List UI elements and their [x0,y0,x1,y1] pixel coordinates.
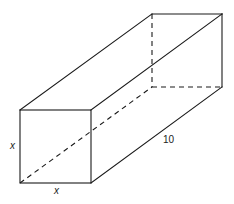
front-height-label: x [10,141,15,151]
rectangular-prism-figure [0,0,234,204]
front-face [20,110,91,183]
length-label: 10 [163,135,174,145]
bottom-right-length-edge [91,87,222,183]
diagram-canvas: x x 10 [0,0,234,204]
front-width-label: x [54,186,59,196]
hidden-bottom-left-length-edge [20,87,152,183]
top-right-length-edge [91,14,222,110]
top-left-length-edge [20,14,152,110]
